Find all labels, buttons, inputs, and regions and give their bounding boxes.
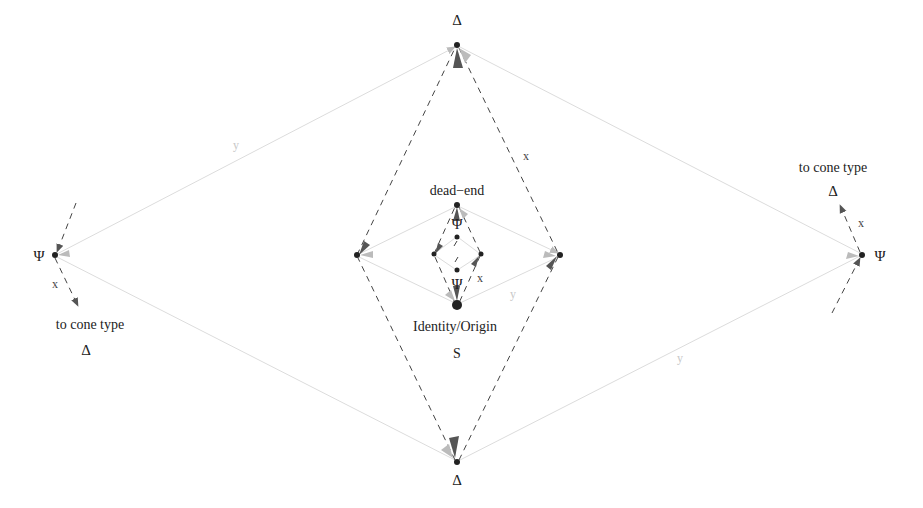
node-inner-bottom [455, 268, 460, 273]
node-origin [452, 300, 462, 310]
x-edge-label-right: x [858, 217, 864, 229]
right-psi-label: Ψ [874, 249, 885, 264]
inner-top-psi-label: Ψ [451, 217, 462, 232]
node-inner-right [479, 252, 484, 257]
node-inner-left [432, 252, 437, 257]
y-edge-label-top-left: y [233, 139, 239, 151]
graph-nodes [52, 42, 865, 465]
right-cone-text: to cone type [799, 161, 867, 175]
left-psi-label: Ψ [33, 249, 44, 264]
node-right-psi [859, 252, 865, 258]
arrowheads [58, 48, 859, 458]
inner-bottom-psi-label: Ψ [451, 277, 462, 292]
node-mid-left [354, 252, 360, 258]
node-dead-end [454, 202, 460, 208]
bottom-delta-label: Δ [452, 473, 462, 488]
node-top-delta [454, 42, 460, 48]
x-edge-label-inner: x [477, 272, 483, 284]
left-cone-text: to cone type [56, 318, 124, 332]
x-edge-label-left: x [52, 278, 58, 290]
cayley-graph-diagram: Δ Δ Ψ Ψ dead−end Ψ Ψ Identity/Origin S t… [0, 0, 923, 508]
y-edge-label-bottom-right: y [677, 352, 683, 364]
right-cone-delta: Δ [828, 184, 838, 199]
graph-edges [0, 0, 923, 508]
origin-sub-label: S [453, 347, 461, 361]
y-edge-label-inner: y [510, 288, 516, 300]
left-cone-delta: Δ [81, 343, 91, 358]
node-inner-top [455, 235, 460, 240]
x-edge-label-top-right: x [523, 150, 529, 162]
top-delta-label: Δ [452, 13, 462, 28]
node-mid-right [557, 252, 563, 258]
dead-end-label: dead−end [430, 184, 485, 198]
node-left-psi [52, 252, 58, 258]
node-bottom-delta [454, 459, 460, 465]
origin-label: Identity/Origin [413, 320, 497, 334]
dashed-x-edges [55, 48, 860, 460]
solid-y-edges [55, 47, 862, 460]
